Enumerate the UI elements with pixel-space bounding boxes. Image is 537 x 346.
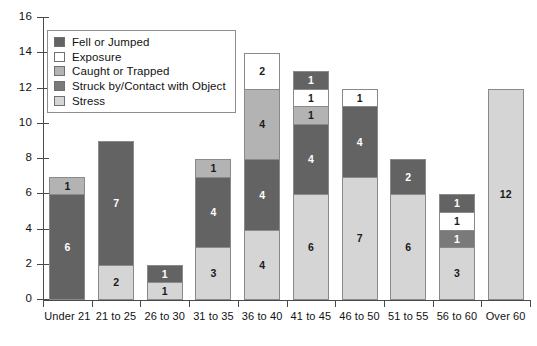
bar-segment: 4 xyxy=(244,159,280,230)
bar-segment-value: 2 xyxy=(405,172,411,183)
bar-segment-value: 2 xyxy=(259,66,265,77)
bar-segment-value: 1 xyxy=(454,216,460,227)
x-axis-label: 41 to 45 xyxy=(287,310,336,322)
bar-36-to-40: 4442 xyxy=(244,53,280,300)
bar-segment-value: 1 xyxy=(162,269,168,280)
legend-swatch-icon xyxy=(54,66,65,76)
y-tick-label: 8 xyxy=(0,151,32,163)
legend-label: Caught or Trapped xyxy=(72,65,170,77)
y-tick-label: 12 xyxy=(0,81,32,93)
x-tick-mark xyxy=(335,301,336,307)
bar-segment-value: 1 xyxy=(454,198,460,209)
x-axis-label: 51 to 55 xyxy=(384,310,433,322)
bar-segment: 7 xyxy=(98,141,134,264)
bar-segment-value: 4 xyxy=(259,119,265,130)
bar-segment: 3 xyxy=(439,247,475,300)
bar-segment-value: 1 xyxy=(162,286,168,297)
y-tick-label: 16 xyxy=(0,10,32,22)
bar-segment: 1 xyxy=(293,89,329,107)
legend-label: Struck by/Contact with Object xyxy=(72,80,226,92)
legend-label: Stress xyxy=(72,95,105,107)
bar-56-to-60: 3111 xyxy=(439,194,475,300)
bar-segment: 1 xyxy=(439,194,475,212)
x-tick-mark xyxy=(530,301,531,307)
bar-21-to-25: 27 xyxy=(98,141,134,300)
bar-segment: 4 xyxy=(293,124,329,195)
bar-segment-value: 4 xyxy=(211,207,217,218)
bar-segment-value: 1 xyxy=(211,163,217,174)
bar-26-to-30: 11 xyxy=(147,265,183,300)
bar-segment: 12 xyxy=(488,89,524,301)
bar-segment: 1 xyxy=(342,89,378,107)
bar-31-to-35: 341 xyxy=(195,159,231,300)
bar-segment: 4 xyxy=(195,177,231,248)
stacked-bar-chart: 1614121086420 61271134144426411174162311… xyxy=(0,0,537,346)
bar-segment: 6 xyxy=(293,194,329,300)
bar-segment: 1 xyxy=(147,282,183,300)
legend-swatch-icon xyxy=(54,52,65,62)
y-tick-label: 6 xyxy=(0,186,32,198)
x-tick-mark xyxy=(384,301,385,307)
bar-segment-value: 1 xyxy=(357,93,363,104)
bar-segment: 2 xyxy=(98,265,134,300)
legend-swatch-icon xyxy=(54,96,65,106)
bar-51-to-55: 62 xyxy=(390,159,426,300)
legend-item: Fell or Jumped xyxy=(54,35,226,50)
legend-item: Struck by/Contact with Object xyxy=(54,79,226,94)
y-tick-label: 4 xyxy=(0,222,32,234)
bar-segment: 1 xyxy=(439,212,475,230)
x-axis-label: 21 to 25 xyxy=(92,310,141,322)
bar-segment-value: 6 xyxy=(405,242,411,253)
x-tick-mark xyxy=(481,301,482,307)
bar-segment-value: 4 xyxy=(259,190,265,201)
x-tick-mark xyxy=(433,301,434,307)
bar-segment: 1 xyxy=(439,230,475,248)
bar-segment-value: 1 xyxy=(308,75,314,86)
bar-over-60: 12 xyxy=(488,89,524,301)
legend-swatch-icon xyxy=(54,81,65,91)
bar-segment-value: 7 xyxy=(113,198,119,209)
bar-segment: 1 xyxy=(293,106,329,124)
bar-segment-value: 6 xyxy=(308,242,314,253)
legend-item: Exposure xyxy=(54,50,226,65)
bar-segment-value: 4 xyxy=(308,154,314,165)
chart-legend: Fell or JumpedExposureCaught or TrappedS… xyxy=(47,30,236,113)
y-tick-label: 0 xyxy=(0,292,32,304)
bar-segment: 4 xyxy=(244,230,280,301)
x-axis-label: Over 60 xyxy=(481,310,530,322)
x-tick-mark xyxy=(287,301,288,307)
y-tick-label: 10 xyxy=(0,116,32,128)
bar-segment: 1 xyxy=(49,177,85,195)
x-axis-label: 26 to 30 xyxy=(140,310,189,322)
x-tick-mark xyxy=(189,301,190,307)
bar-segment: 2 xyxy=(244,53,280,88)
bar-segment: 3 xyxy=(195,247,231,300)
bar-41-to-45: 64111 xyxy=(293,71,329,300)
legend-item: Caught or Trapped xyxy=(54,64,226,79)
x-axis-label: Under 21 xyxy=(43,310,92,322)
bar-segment-value: 4 xyxy=(259,260,265,271)
x-axis-label: 31 to 35 xyxy=(189,310,238,322)
bar-segment-value: 1 xyxy=(308,110,314,121)
bar-segment-value: 1 xyxy=(308,93,314,104)
x-tick-mark xyxy=(140,301,141,307)
x-tick-mark xyxy=(43,301,44,307)
bar-segment-value: 1 xyxy=(64,181,70,192)
y-tick-label: 2 xyxy=(0,257,32,269)
bar-segment: 1 xyxy=(293,71,329,89)
x-axis-label: 46 to 50 xyxy=(335,310,384,322)
bar-segment: 7 xyxy=(342,177,378,300)
bar-segment: 6 xyxy=(390,194,426,300)
bar-segment-value: 7 xyxy=(357,233,363,244)
bar-segment: 1 xyxy=(147,265,183,283)
bar-segment: 4 xyxy=(244,89,280,160)
y-tick-label: 14 xyxy=(0,45,32,57)
bar-segment-value: 6 xyxy=(64,242,70,253)
bar-under-21: 61 xyxy=(49,177,85,300)
x-tick-mark xyxy=(238,301,239,307)
bar-segment-value: 1 xyxy=(454,234,460,245)
x-tick-mark xyxy=(92,301,93,307)
bar-segment: 6 xyxy=(49,194,85,300)
legend-item: Stress xyxy=(54,93,226,108)
x-axis-label: 56 to 60 xyxy=(433,310,482,322)
